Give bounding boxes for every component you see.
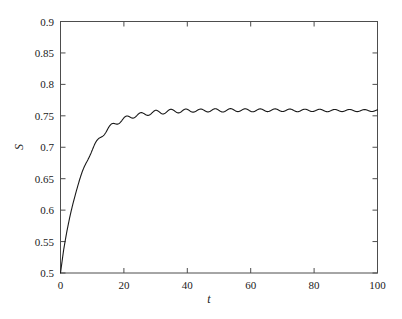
chart-canvas	[0, 0, 402, 319]
plot-frame	[61, 22, 378, 274]
x-tick-label: 100	[369, 280, 386, 291]
y-tick-label: 0.5	[18, 268, 54, 279]
x-tick-label: 80	[309, 280, 320, 291]
y-tick-label: 0.9	[18, 16, 54, 27]
x-tick-label: 60	[245, 280, 256, 291]
y-tick-label: 0.85	[18, 47, 54, 58]
y-axis-title: S	[13, 138, 25, 156]
x-tick-label: 40	[182, 280, 193, 291]
y-tick-label: 0.55	[18, 236, 54, 247]
data-series-line	[61, 109, 378, 273]
axis-ticks	[61, 22, 378, 274]
x-tick-label: 0	[58, 280, 64, 291]
y-tick-label: 0.65	[18, 173, 54, 184]
x-tick-label: 20	[118, 280, 129, 291]
y-tick-label: 0.75	[18, 110, 54, 121]
figure-container: 0.50.550.60.650.70.750.80.850.9 02040608…	[0, 0, 402, 319]
x-axis-title: t	[200, 293, 218, 305]
y-tick-label: 0.8	[18, 79, 54, 90]
y-tick-label: 0.6	[18, 205, 54, 216]
